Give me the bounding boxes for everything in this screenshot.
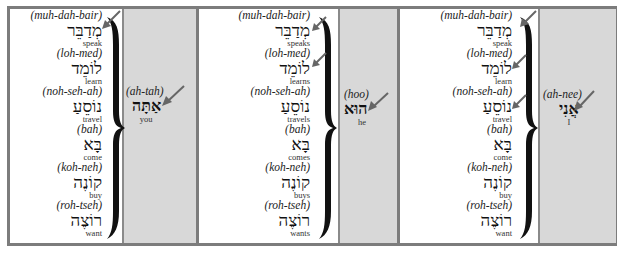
arrow-icon [310, 15, 328, 33]
panel-1-verb-2: (noh-seh-ah) נוֹסֵעַ travel [0, 86, 102, 124]
curly-brace-icon [103, 15, 127, 241]
hebrew-word: לוֹמֵד [200, 59, 310, 77]
hebrew-word: נוֹסֵעַ [200, 97, 310, 115]
panel-2-verb-0: (muh-dah-bair) מְדַבֵּר speaks [200, 10, 310, 48]
arrow-icon [160, 84, 186, 108]
panel-1-verb-1: (loh-med) לוֹמֵד learn [0, 48, 102, 86]
panel-2-verb-4: (koh-neh) קוֹנֶה buys [200, 162, 310, 200]
hebrew-word: קוֹנֶה [0, 173, 102, 191]
hebrew-word: מְדַבֵּר [0, 21, 102, 39]
english-gloss: you [126, 115, 166, 124]
hebrew-word: לוֹמֵד [0, 59, 102, 77]
panel-2-verb-3: (bah) בָּא comes [200, 124, 310, 162]
hebrew-word: בָּא [200, 135, 310, 153]
panel-1-verb-0: (muh-dah-bair) מְדַבֵּר speak [0, 10, 102, 48]
hebrew-word: רוֹצֶה [200, 211, 310, 229]
vocabulary-table-frame: (muh-dah-bair) מְדַבֵּר speak (loh-med) … [7, 6, 617, 246]
hebrew-word: בָּא [402, 135, 512, 153]
arrow-icon [518, 9, 538, 29]
hebrew-word: לוֹמֵד [402, 59, 512, 77]
hebrew-word: בָּא [0, 135, 102, 153]
arrow-icon [366, 91, 390, 113]
hebrew-word: נוֹסֵעַ [402, 97, 512, 115]
panel-1-verb-3: (bah) בָּא come [0, 124, 102, 162]
arrow-icon [510, 93, 528, 111]
panel-2-verb-2: (noh-seh-ah) נוֹסֵעַ travels [200, 86, 310, 124]
english-gloss: I [543, 118, 595, 127]
arrow-icon [100, 9, 122, 31]
arrow-icon [310, 51, 328, 69]
panel-3-verb-0: (muh-dah-bair) מְדַבֵּר speak [402, 10, 512, 48]
panel-3-verb-2: (noh-seh-ah) נוֹסֵעַ travel [402, 86, 512, 124]
hebrew-word: קוֹנֶה [402, 173, 512, 191]
arrow-icon [572, 89, 596, 113]
panel-1-verb-5: (roh-tseh) רוֹצֶה want [0, 200, 102, 238]
english-gloss: wants [200, 229, 310, 238]
panel-3-verb-1: (loh-med) לוֹמֵד learn [402, 48, 512, 86]
curly-brace-icon [315, 15, 339, 241]
english-gloss: want [0, 229, 102, 238]
panel-3-verb-5: (roh-tseh) רוֹצֶה want [402, 200, 512, 238]
hebrew-word: רוֹצֶה [402, 211, 512, 229]
panel-3-verb-3: (bah) בָּא come [402, 124, 512, 162]
panel-1-verb-4: (koh-neh) קוֹנֶה buy [0, 162, 102, 200]
panel-1-pronoun-column [122, 9, 198, 243]
hebrew-word: נוֹסֵעַ [0, 97, 102, 115]
hebrew-word: רוֹצֶה [0, 211, 102, 229]
arrow-icon [510, 53, 528, 71]
curly-brace-icon [516, 15, 540, 241]
panel-3-verb-4: (koh-neh) קוֹנֶה buy [402, 162, 512, 200]
panel-2-verb-1: (loh-med) לוֹמֵד learns [200, 48, 310, 86]
panel-2-verb-5: (roh-tseh) רוֹצֶה wants [200, 200, 310, 238]
hebrew-word: קוֹנֶה [200, 173, 310, 191]
english-gloss: he [344, 118, 380, 127]
hebrew-word: מְדַבֵּר [200, 21, 310, 39]
english-gloss: want [402, 229, 512, 238]
hebrew-word: מְדַבֵּר [402, 21, 512, 39]
